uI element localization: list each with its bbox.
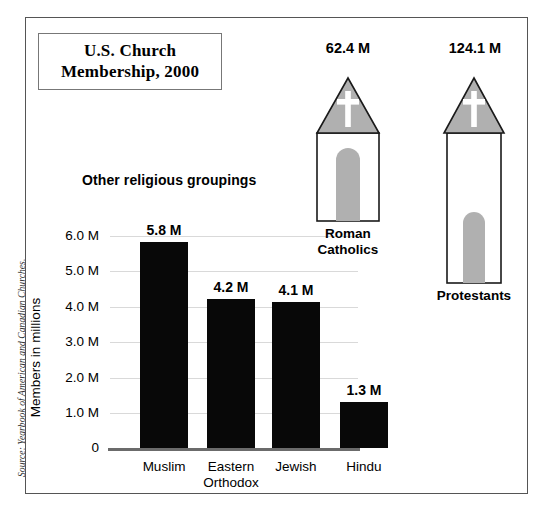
cross-icon-horizontal [337,99,359,105]
cross-icon-vertical [471,91,477,127]
church-value-protestants: 124.1 M [437,40,513,56]
church-pictogram-roman-catholics [313,74,383,228]
church-label-roman-catholics: Roman Catholics [303,226,393,258]
chart-figure: Source: Yearbook of American and Canadia… [0,0,546,515]
title-line-2: Membership, 2000 [61,62,199,83]
chart-subtitle: Other religious groupings [82,172,256,188]
church-label-protestants: Protestants [429,288,519,304]
church-door-icon [463,212,485,283]
title-box: U.S. Church Membership, 2000 [38,33,222,90]
church-label-roman-catholics-line2: Catholics [303,242,393,258]
cross-icon-vertical [345,91,351,127]
cross-icon-horizontal [463,99,485,105]
church-svg-protestants [440,74,508,286]
church-label-protestants-line1: Protestants [429,288,519,304]
church-label-roman-catholics-line1: Roman [303,226,393,242]
title-line-1: U.S. Church [84,41,176,62]
church-pictogram-protestants [440,74,508,290]
church-door-icon [336,148,360,221]
church-value-roman-catholics: 62.4 M [312,40,384,56]
church-svg-roman-catholics [313,74,383,224]
